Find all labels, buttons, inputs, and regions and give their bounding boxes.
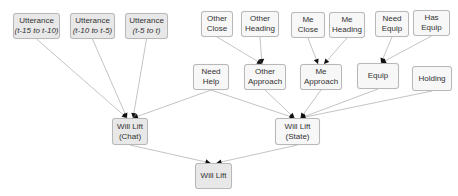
node-label-line1: Will Lift [285,122,311,132]
node-me-approach[interactable]: MeApproach [300,64,342,90]
node-other-heading[interactable]: OtherHeading [241,11,279,37]
edge-need_help-to-will_lift_chat [133,90,211,119]
node-label-line1: Other [207,14,227,24]
node-label-line2: Heading [245,24,275,34]
node-label-line2: Approach [248,77,282,87]
node-other-approach[interactable]: OtherApproach [244,64,286,90]
node-utt1[interactable]: Utterance(t-15 to t-10) [13,13,60,39]
node-label-line1: Equip [368,71,388,81]
node-holding[interactable]: Holding [412,66,452,91]
node-label-line1: Has [424,13,438,23]
node-label-line1: Holding [418,74,445,84]
node-label-line1: Me [302,15,313,25]
node-will-lift-chat[interactable]: Will Lift(Chat) [112,118,148,145]
node-me-close[interactable]: MeClose [291,12,325,38]
node-label-line2: Equip [421,23,441,33]
edge-other_heading-to-other_approach [259,37,264,64]
node-label-line1: Utterance [75,16,110,26]
node-utt3[interactable]: Utterance(t-5 to t) [125,13,168,39]
node-equip[interactable]: Equip [357,63,399,89]
node-has-equip[interactable]: HasEquip [413,10,450,36]
node-will-lift[interactable]: Will Lift [195,163,232,189]
edge-other_approach-to-will_lift_state [265,90,295,118]
edge-utt3-to-will_lift_chat [131,39,146,118]
node-label-line1: Other [250,14,270,24]
edge-need_equip-to-equip [381,37,392,63]
node-will-lift-state[interactable]: Will Lift(State) [275,118,320,145]
node-label-line1: Need [382,14,401,24]
node-label-line2: Equip [382,24,402,34]
edge-other_close-to-other_approach [217,37,262,64]
node-label-line1: Need [201,67,220,77]
node-label-line1: Will Lift [201,171,227,181]
node-label-line1: Other [255,67,275,77]
edge-me_close-to-me_approach [308,38,319,64]
edge-utt2-to-will_lift_chat [93,39,128,118]
node-label-line2: Close [298,25,318,35]
node-label-line2: (State) [285,132,309,142]
node-need-equip[interactable]: NeedEquip [375,11,409,37]
edge-has_equip-to-equip [381,36,432,63]
edge-will_lift_chat-to-will_lift [130,145,211,164]
edge-will_lift_state-to-will_lift [217,145,298,164]
edge-utt1-to-will_lift_chat [37,39,128,118]
node-label-line1: Utterance [19,16,54,26]
edge-me_heading-to-me_approach [324,38,347,64]
node-label-line1: Me [341,15,352,25]
node-other-close[interactable]: OtherClose [201,11,233,37]
edge-equip-to-will_lift_state [301,89,379,119]
node-me-heading[interactable]: MeHeading [329,12,365,38]
node-label-line2: (Chat) [119,132,141,142]
edge-holding-to-will_lift_state [301,91,433,120]
node-need-help[interactable]: NeedHelp [193,64,229,90]
node-label-line2: (t-5 to t) [132,26,160,36]
node-label-line1: Will Lift [117,122,143,132]
node-label-line2: (t-15 to t-10) [14,26,58,36]
node-label-line2: Heading [332,25,362,35]
node-label-line2: (t-10 to t-5) [73,26,113,36]
node-label-line2: Close [207,24,227,34]
node-label-line1: Me [315,67,326,77]
node-label-line2: Approach [304,77,338,87]
bayesian-network-diagram: Utterance(t-15 to t-10)Utterance(t-10 to… [0,0,458,196]
node-utt2[interactable]: Utterance(t-10 to t-5) [70,13,115,39]
node-label-line2: Help [203,77,219,87]
edge-need_help-to-will_lift_state [211,90,295,119]
node-label-line1: Utterance [129,16,164,26]
